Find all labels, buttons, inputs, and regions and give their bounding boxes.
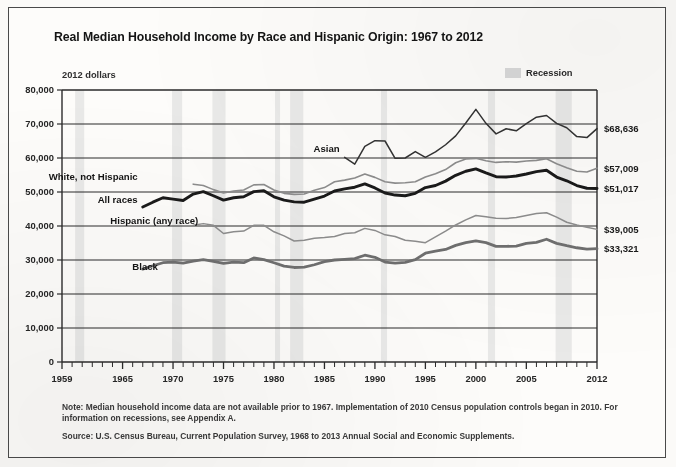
chart-svg: 010,00020,00030,00040,00050,00060,00070,… <box>0 0 676 467</box>
series-line <box>143 239 597 269</box>
note-text: Note: Median household income data are n… <box>62 402 632 425</box>
data-series-lines <box>143 109 597 269</box>
series-end-label: $51,017 <box>604 183 639 194</box>
y-axis-tick-label: 60,000 <box>25 152 54 163</box>
series-label: All races <box>98 194 138 205</box>
x-axis-tick-label: 1959 <box>52 373 73 384</box>
y-axis-labels: 010,00020,00030,00040,00050,00060,00070,… <box>25 84 54 367</box>
axis-ticks <box>57 90 597 369</box>
series-end-label: $68,636 <box>604 123 639 134</box>
y-axis-tick-label: 10,000 <box>25 322 54 333</box>
series-end-label: $39,005 <box>604 224 639 235</box>
series-label: Black <box>132 261 158 272</box>
x-axis-tick-label: 1985 <box>314 373 335 384</box>
series-end-label: $33,321 <box>604 243 639 254</box>
series-label: Asian <box>313 143 339 154</box>
x-axis-tick-label: 1990 <box>364 373 385 384</box>
series-line <box>193 213 597 243</box>
series-line <box>193 158 597 194</box>
series-label: Hispanic (any race) <box>110 215 198 226</box>
x-axis-tick-label: 1980 <box>264 373 285 384</box>
x-axis-tick-label: 1970 <box>163 373 184 384</box>
gridlines <box>62 90 597 328</box>
y-axis-tick-label: 70,000 <box>25 118 54 129</box>
x-axis-tick-label: 2005 <box>516 373 537 384</box>
x-axis-tick-label: 2000 <box>465 373 486 384</box>
source-text: Source: U.S. Census Bureau, Current Popu… <box>62 431 632 442</box>
figure-container: Real Median Household Income by Race and… <box>0 0 676 467</box>
y-axis-tick-label: 50,000 <box>25 186 54 197</box>
x-axis-tick-label: 1965 <box>112 373 133 384</box>
footnotes: Note: Median household income data are n… <box>62 402 632 442</box>
x-axis-tick-label: 2012 <box>587 373 608 384</box>
plot-area: 010,00020,00030,00040,00050,00060,00070,… <box>0 0 676 467</box>
y-axis-tick-label: 0 <box>49 356 54 367</box>
x-axis-tick-label: 1995 <box>415 373 436 384</box>
y-axis-tick-label: 40,000 <box>25 220 54 231</box>
series-label: White, not Hispanic <box>49 171 139 182</box>
x-axis-labels: 1959196519701975198019851990199520002005… <box>52 373 608 384</box>
series-end-label: $57,009 <box>604 163 639 174</box>
y-axis-tick-label: 30,000 <box>25 254 54 265</box>
y-axis-tick-label: 80,000 <box>25 84 54 95</box>
x-axis-tick-label: 1975 <box>213 373 234 384</box>
series-end-value-labels: $68,636$57,009$51,017$39,005$33,321 <box>604 123 639 254</box>
y-axis-tick-label: 20,000 <box>25 288 54 299</box>
